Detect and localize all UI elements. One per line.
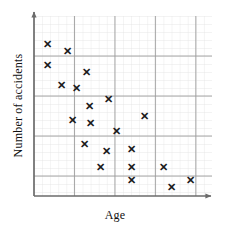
data-point-marker: ✕ xyxy=(81,67,92,78)
y-axis-label: Number of accidents xyxy=(11,16,26,196)
data-point-marker: ✕ xyxy=(126,175,137,186)
data-point-marker: ✕ xyxy=(166,182,177,193)
data-point-marker: ✕ xyxy=(103,94,114,105)
data-point-marker: ✕ xyxy=(67,115,78,126)
data-point-marker: ✕ xyxy=(101,146,112,157)
data-point-marker: ✕ xyxy=(158,162,169,173)
plot-area: ✕✕✕✕✕✕✕✕✕✕✕✕✕✕✕✕✕✕✕✕✕ xyxy=(34,16,212,196)
data-point-marker: ✕ xyxy=(71,83,82,94)
data-point-marker: ✕ xyxy=(56,80,67,91)
data-point-marker: ✕ xyxy=(126,162,137,173)
data-point-marker: ✕ xyxy=(79,139,90,150)
x-axis-label: Age xyxy=(0,208,230,223)
data-point-marker: ✕ xyxy=(126,144,137,155)
data-point-marker: ✕ xyxy=(95,162,106,173)
data-point-marker: ✕ xyxy=(111,126,122,137)
data-point-marker: ✕ xyxy=(84,101,95,112)
data-point-marker: ✕ xyxy=(62,46,73,57)
data-points-layer: ✕✕✕✕✕✕✕✕✕✕✕✕✕✕✕✕✕✕✕✕✕ xyxy=(34,16,212,196)
data-point-marker: ✕ xyxy=(85,118,96,129)
data-point-marker: ✕ xyxy=(42,60,53,71)
data-point-marker: ✕ xyxy=(42,39,53,50)
scatter-plot-figure: ✕✕✕✕✕✕✕✕✕✕✕✕✕✕✕✕✕✕✕✕✕ Age Number of acci… xyxy=(0,0,230,232)
data-point-marker: ✕ xyxy=(139,111,150,122)
data-point-marker: ✕ xyxy=(185,175,196,186)
